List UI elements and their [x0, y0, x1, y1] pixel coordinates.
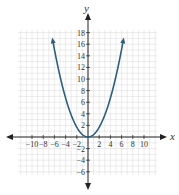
axes — [6, 13, 167, 190]
svg-text:4: 4 — [108, 140, 112, 149]
svg-text:−6: −6 — [50, 140, 59, 149]
svg-text:14: 14 — [77, 52, 85, 61]
svg-text:−10: −10 — [26, 140, 39, 149]
parabola-chart: −10−8−6−4−2246810−6−4−224681012141618 x … — [0, 0, 179, 195]
svg-text:−6: −6 — [76, 168, 85, 177]
svg-text:10: 10 — [140, 140, 148, 149]
y-axis-label: y — [83, 2, 89, 14]
x-axis-label: x — [169, 130, 175, 142]
svg-text:2: 2 — [97, 140, 101, 149]
svg-text:12: 12 — [77, 63, 85, 72]
svg-text:4: 4 — [81, 110, 85, 119]
svg-text:8: 8 — [81, 87, 85, 96]
svg-text:−2: −2 — [76, 145, 85, 154]
svg-text:−4: −4 — [61, 140, 70, 149]
svg-text:6: 6 — [120, 140, 124, 149]
svg-text:16: 16 — [77, 40, 85, 49]
svg-text:−8: −8 — [39, 140, 48, 149]
svg-text:8: 8 — [131, 140, 135, 149]
svg-text:18: 18 — [77, 29, 85, 38]
svg-text:6: 6 — [81, 98, 85, 107]
svg-text:2: 2 — [81, 121, 85, 130]
svg-text:10: 10 — [77, 75, 85, 84]
svg-text:−4: −4 — [76, 156, 85, 165]
